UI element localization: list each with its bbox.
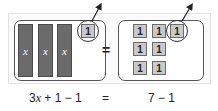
equation-equals: = bbox=[102, 91, 109, 105]
equation-right: 7 − 1 bbox=[148, 91, 175, 105]
arrow-up-icon bbox=[182, 6, 191, 21]
constant-terms: + 1 − 1 bbox=[41, 91, 82, 105]
equation-left: 3x + 1 − 1 bbox=[29, 91, 82, 106]
arrow-up-icon bbox=[92, 6, 100, 21]
coefficient: 3 bbox=[29, 91, 36, 105]
